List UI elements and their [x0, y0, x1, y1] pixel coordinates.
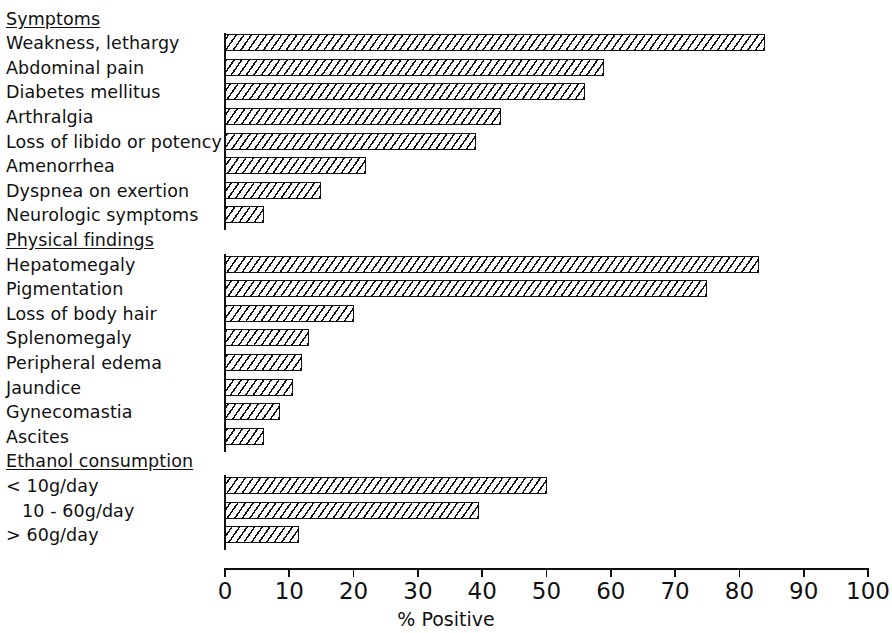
x-tick-label: 50	[517, 578, 577, 604]
bar	[225, 108, 501, 125]
bar	[225, 182, 321, 199]
group-baseline	[224, 475, 226, 550]
bar	[225, 34, 765, 51]
group-baseline	[224, 33, 226, 231]
bar	[225, 403, 280, 420]
x-tick	[481, 568, 483, 577]
bar	[225, 305, 354, 322]
x-tick	[288, 568, 290, 577]
x-tick	[674, 568, 676, 577]
bar	[225, 83, 585, 100]
x-tick-label: 0	[195, 578, 255, 604]
bar	[225, 428, 264, 445]
x-tick-label: 80	[709, 578, 769, 604]
bar	[225, 379, 293, 396]
x-tick-label: 70	[645, 578, 705, 604]
group-baseline	[224, 254, 226, 452]
bar	[225, 256, 759, 273]
x-tick-label: 10	[259, 578, 319, 604]
x-tick-label: 90	[774, 578, 834, 604]
bar	[225, 280, 707, 297]
x-tick-label: 20	[324, 578, 384, 604]
bar	[225, 329, 309, 346]
x-tick	[803, 568, 805, 577]
bar	[225, 354, 302, 371]
x-axis-title: % Positive	[0, 608, 892, 630]
x-tick	[224, 568, 226, 577]
bar	[225, 59, 604, 76]
x-tick	[417, 568, 419, 577]
x-tick	[353, 568, 355, 577]
x-tick-label: 40	[452, 578, 512, 604]
bar	[225, 133, 476, 150]
x-tick	[610, 568, 612, 577]
bar	[225, 526, 299, 543]
bar	[225, 206, 264, 223]
x-tick-label: 100	[838, 578, 892, 604]
plot-area: 0102030405060708090100	[0, 0, 892, 633]
bar	[225, 157, 366, 174]
x-tick	[739, 568, 741, 577]
x-tick	[546, 568, 548, 577]
chart-figure: SymptomsWeakness, lethargyAbdominal pain…	[0, 0, 892, 633]
bar	[225, 502, 479, 519]
bar	[225, 477, 547, 494]
x-tick	[867, 568, 869, 577]
x-tick-label: 60	[581, 578, 641, 604]
x-tick-label: 30	[388, 578, 448, 604]
